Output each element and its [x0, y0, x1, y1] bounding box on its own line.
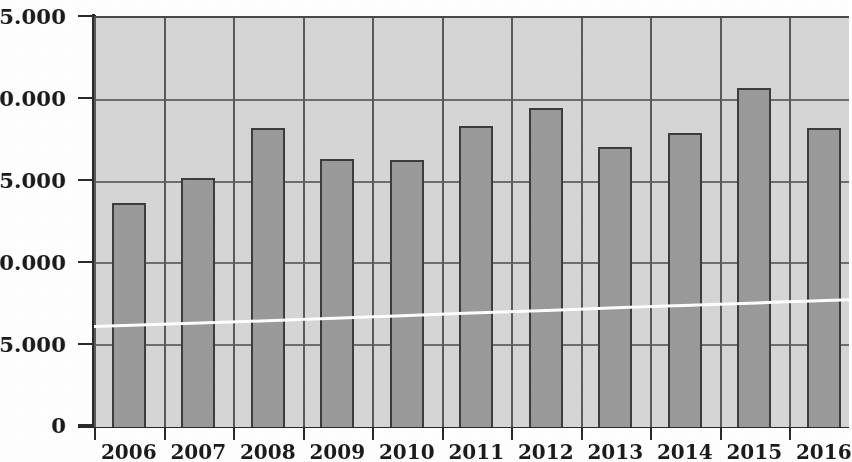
plot-area	[94, 16, 849, 427]
x-axis-tick-3	[303, 427, 305, 440]
x-axis-label-2015: 2015	[726, 440, 782, 462]
y-axis-label-25000: 25.000	[0, 4, 66, 29]
y-axis-label-10000: 10.000	[0, 250, 66, 275]
bar-2013	[598, 147, 632, 427]
x-axis-tick-0	[94, 427, 96, 440]
y-axis: 25.000 20.000 15.000 10.000 5.000 0	[0, 0, 78, 462]
x-axis-label-2009: 2009	[309, 440, 365, 462]
x-axis-tick-4	[372, 427, 374, 440]
bar-2011	[459, 126, 493, 427]
x-axis-tick-7	[581, 427, 583, 440]
y-axis-label-5000: 5.000	[0, 332, 66, 357]
category-separator-9	[720, 18, 722, 427]
bar-2006	[112, 203, 146, 427]
bar-2012	[529, 108, 563, 427]
x-axis-tick-8	[650, 427, 652, 440]
category-separator-6	[511, 18, 513, 427]
x-axis-tick-10	[789, 427, 791, 440]
bar-2007	[181, 178, 215, 427]
y-axis-label-15000: 15.000	[0, 168, 66, 193]
bar-2015	[737, 88, 771, 427]
x-axis-label-2012: 2012	[518, 440, 574, 462]
y-axis-label-20000: 20.000	[0, 86, 66, 111]
category-separator-0	[94, 18, 96, 427]
category-separator-3	[303, 18, 305, 427]
category-separator-8	[650, 18, 652, 427]
gridline-20000	[94, 99, 849, 101]
x-axis-label-2016: 2016	[796, 440, 852, 462]
category-separator-2	[233, 18, 235, 427]
x-axis-label-2007: 2007	[170, 440, 226, 462]
bar-2016	[807, 128, 841, 427]
y-axis-label-0: 0	[51, 413, 66, 438]
x-axis-tick-5	[442, 427, 444, 440]
x-axis-label-2013: 2013	[587, 440, 643, 462]
bar-2008	[251, 128, 285, 427]
category-separator-7	[581, 18, 583, 427]
x-axis-tick-6	[511, 427, 513, 440]
x-axis-label-2010: 2010	[379, 440, 435, 462]
category-separator-5	[442, 18, 444, 427]
x-axis-tick-1	[164, 427, 166, 440]
x-axis-label-2008: 2008	[240, 440, 296, 462]
bar-2014	[668, 133, 702, 427]
category-separator-4	[372, 18, 374, 427]
x-axis-tick-2	[233, 427, 235, 440]
x-axis-label-2011: 2011	[448, 440, 504, 462]
x-axis-label-2014: 2014	[657, 440, 713, 462]
x-axis-tick-9	[720, 427, 722, 440]
category-separator-10	[789, 18, 791, 427]
bar-2009	[320, 159, 354, 427]
category-separator-1	[164, 18, 166, 427]
x-axis-label-2006: 2006	[101, 440, 157, 462]
bar-2010	[390, 160, 424, 427]
